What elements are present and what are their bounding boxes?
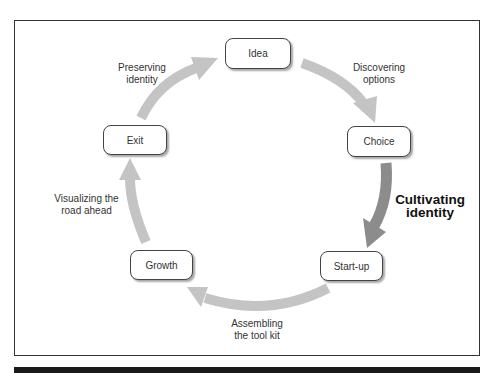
label-line: Assembling [217, 318, 297, 330]
label-line: options [339, 74, 419, 86]
node-choice-label: Choice [363, 136, 394, 147]
label-line: the tool kit [217, 330, 297, 342]
label-line: Discovering [339, 62, 419, 74]
node-exit: Exit [103, 125, 167, 155]
node-growth-label: Growth [145, 260, 177, 271]
node-exit-label: Exit [127, 135, 144, 146]
label-line: identity [390, 206, 470, 219]
label-visualizing-road-ahead: Visualizing the road ahead [44, 193, 129, 217]
bottom-rule [14, 367, 480, 373]
label-cultivating-identity: Cultivating identity [390, 193, 470, 219]
node-startup-label: Start-up [334, 261, 370, 272]
label-line: Preserving [112, 62, 172, 74]
node-startup: Start-up [320, 251, 383, 281]
label-discovering-options: Discovering options [339, 62, 419, 86]
arrow-startup-to-growth [187, 287, 328, 307]
label-line: road ahead [44, 205, 129, 217]
node-choice: Choice [347, 126, 411, 157]
node-idea: Idea [225, 38, 291, 69]
label-line: identity [112, 74, 172, 86]
label-assembling-tool-kit: Assembling the tool kit [217, 318, 297, 342]
label-line: Visualizing the [44, 193, 129, 205]
node-growth: Growth [130, 250, 193, 280]
arrow-choice-to-startup [363, 163, 387, 248]
label-preserving-identity: Preserving identity [112, 62, 172, 86]
node-idea-label: Idea [248, 48, 267, 59]
